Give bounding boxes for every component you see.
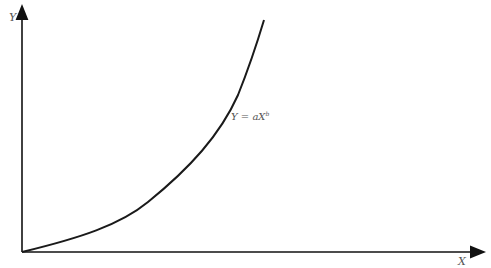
equation-equals: = — [241, 111, 249, 122]
power-curve-diagram — [0, 0, 491, 268]
power-curve — [22, 20, 264, 252]
curve-equation-label: Y = aXb — [231, 110, 269, 122]
equation-exponent: b — [265, 110, 269, 117]
y-axis-label: Y — [9, 11, 16, 24]
x-axis-label: X — [458, 255, 466, 268]
equation-lhs: Y — [231, 111, 238, 122]
equation-rhs: aX — [252, 111, 265, 122]
